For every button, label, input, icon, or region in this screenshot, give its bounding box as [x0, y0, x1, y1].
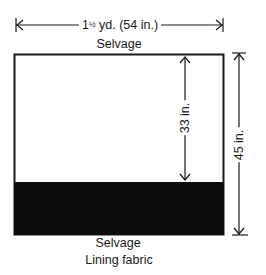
selvage-top-label: Selvage [96, 38, 141, 51]
selvage-bottom-label: Selvage [95, 237, 140, 250]
caption: Lining fabric [85, 254, 152, 267]
lining-section [14, 182, 224, 235]
outer-height-label: 45 in. [233, 128, 246, 163]
inner-height-label: 33 in. [179, 101, 192, 136]
width-label: 1½ yd. (54 in.) [79, 19, 161, 32]
